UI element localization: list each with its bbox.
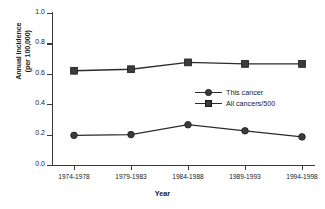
legend: This cancer All cancers/500 — [195, 87, 275, 109]
y-axis-title: Annual incidence (per 100,000) — [15, 0, 33, 121]
y-tick-label: 0.6 — [35, 69, 45, 76]
series-all-cancers — [71, 59, 306, 74]
data-point-square — [71, 67, 78, 74]
x-tick-label: 1984-1988 — [172, 173, 204, 180]
y-tick-label: 1.0 — [35, 8, 45, 15]
x-tick-mark — [131, 165, 132, 170]
data-point-circle — [299, 134, 306, 141]
x-tick-mark — [245, 165, 246, 170]
series-this-cancer — [71, 121, 306, 140]
y-axis-title-line1: Annual incidence — [15, 23, 23, 80]
data-point-square — [299, 61, 306, 68]
data-point-circle — [71, 132, 78, 139]
x-tick-label: 1989-1993 — [229, 173, 261, 180]
y-tick-mark — [47, 165, 52, 166]
x-tick-mark — [188, 165, 189, 170]
x-tick-mark — [302, 165, 303, 170]
legend-item-all-cancers: All cancers/500 — [195, 98, 275, 109]
data-point-circle — [242, 128, 249, 135]
data-point-circle — [128, 131, 135, 138]
legend-label-all-cancers: All cancers/500 — [226, 99, 275, 108]
x-tick-mark — [74, 165, 75, 170]
legend-label-this-cancer: This cancer — [226, 88, 263, 97]
data-point-circle — [185, 121, 192, 128]
y-tick-label: 0.4 — [35, 99, 45, 106]
legend-marker-circle-icon — [195, 87, 222, 98]
data-point-square — [128, 66, 135, 73]
x-tick-label: 1979-1983 — [115, 173, 147, 180]
legend-marker-square-icon — [195, 98, 222, 109]
x-tick-label: 1994-1998 — [286, 173, 318, 180]
y-tick-label: 0.0 — [35, 160, 45, 167]
x-axis-title: Year — [0, 189, 325, 198]
legend-item-this-cancer: This cancer — [195, 87, 275, 98]
y-tick-label: 0.8 — [35, 38, 45, 45]
y-axis-title-line2: (per 100,000) — [24, 0, 33, 121]
line-chart: Annual incidence (per 100,000) 0.00.20.4… — [0, 0, 325, 209]
data-point-square — [242, 61, 249, 68]
y-tick-label: 0.2 — [35, 129, 45, 136]
plot-area: 0.00.20.40.60.81.0 1974-19781979-1983198… — [52, 13, 314, 165]
data-point-square — [185, 59, 192, 66]
x-tick-label: 1974-1978 — [58, 173, 90, 180]
